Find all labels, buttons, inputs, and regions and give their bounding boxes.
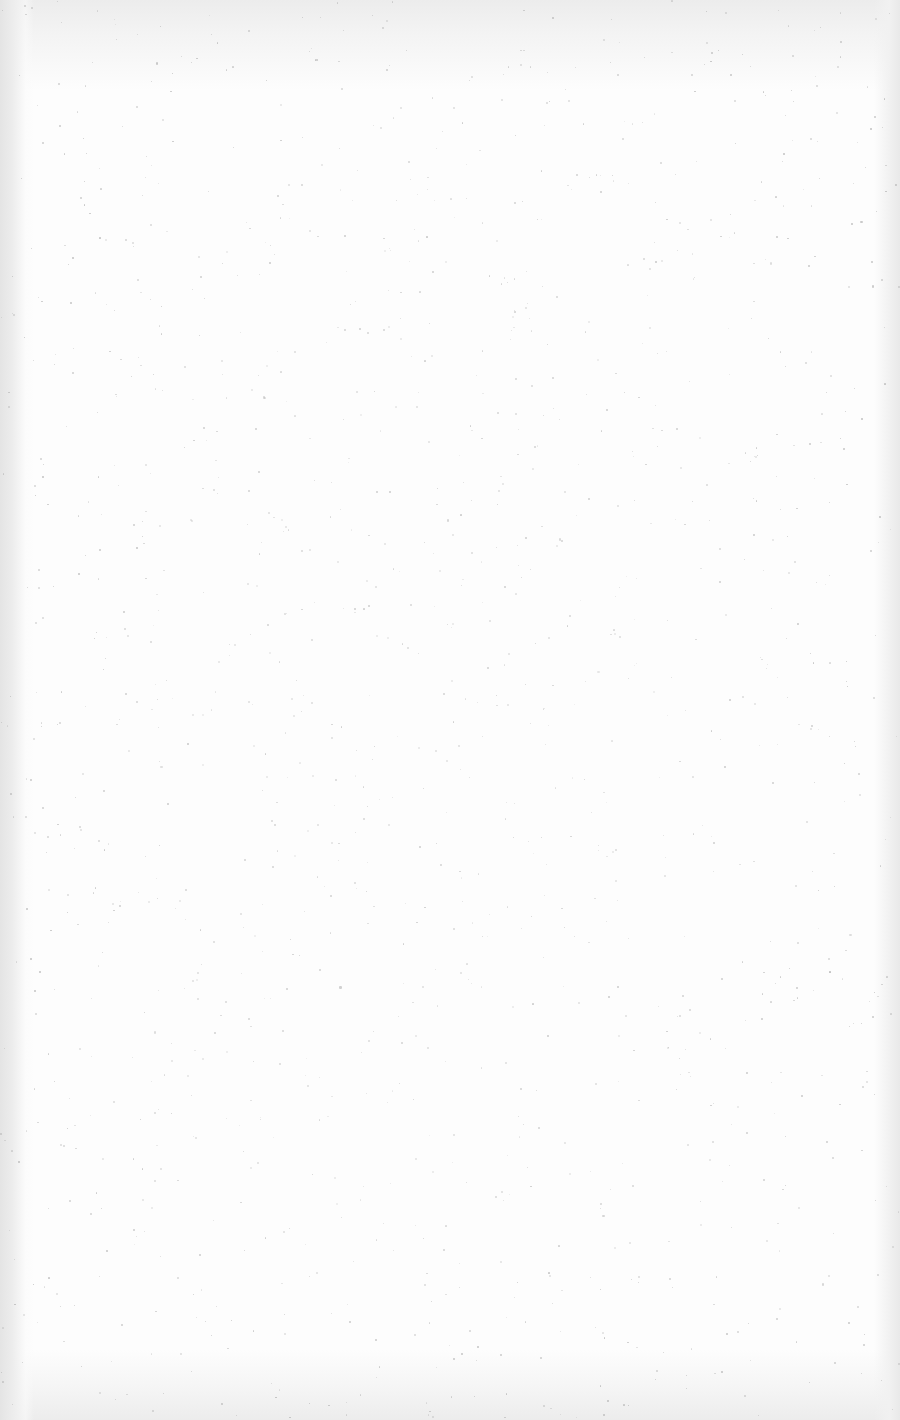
scan-edge-shadow-right [874,0,900,1420]
paper-speckle-noise [0,0,900,1420]
scan-edge-shadow-top [0,0,900,90]
scan-edge-shadow-left [0,0,34,1420]
scan-edge-shadow-bottom [0,1350,900,1420]
blank-scanned-page [0,0,900,1420]
